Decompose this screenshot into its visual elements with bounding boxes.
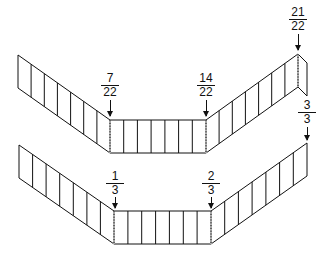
numerator: 21	[286, 7, 310, 18]
denominator: 22	[286, 21, 310, 32]
denominator: 3	[199, 185, 223, 196]
fraction-label-7-22: 7 22	[98, 73, 122, 98]
numerator: 1	[103, 171, 127, 182]
numerator: 7	[98, 73, 122, 84]
fraction-label-2-3: 2 3	[199, 171, 223, 196]
denominator: 22	[194, 87, 218, 98]
fraction-label-14-22: 14 22	[194, 73, 218, 98]
down-arrow-icon	[211, 197, 212, 208]
folded-strips-diagram	[0, 0, 329, 259]
bottom-strip	[19, 143, 307, 244]
numerator: 2	[199, 171, 223, 182]
down-arrow-icon	[307, 127, 308, 140]
numerator: 3	[295, 100, 319, 111]
fraction-label-21-22: 21 22	[286, 7, 310, 32]
down-arrow-icon	[115, 197, 116, 208]
down-arrow-icon	[206, 100, 207, 116]
denominator: 22	[98, 87, 122, 98]
top-strip	[18, 54, 307, 153]
fraction-label-1-3: 1 3	[103, 171, 127, 196]
down-arrow-icon	[110, 100, 111, 116]
denominator: 3	[103, 185, 127, 196]
numerator: 14	[194, 73, 218, 84]
denominator: 3	[295, 114, 319, 125]
down-arrow-icon	[298, 34, 299, 50]
fraction-label-3-3: 3 3	[295, 100, 319, 125]
